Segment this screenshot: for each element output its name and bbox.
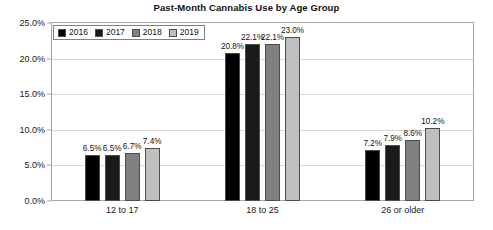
bar[interactable] — [385, 145, 400, 201]
bar[interactable] — [425, 128, 440, 201]
legend-label: 2016 — [69, 28, 88, 37]
bar-group: 7.2%7.9%8.6%10.2% — [365, 23, 440, 201]
bar-value-label: 6.5% — [103, 144, 122, 154]
chart-title: Past-Month Cannabis Use by Age Group — [0, 2, 493, 13]
y-tick-label: 20.0% — [19, 54, 45, 64]
x-tick-label: 12 to 17 — [106, 205, 139, 215]
bar-value-label: 7.2% — [363, 139, 382, 149]
bar-value-label: 10.2% — [421, 117, 444, 127]
bar[interactable] — [105, 155, 120, 201]
bar[interactable] — [265, 44, 280, 201]
y-tick-label: 5.0% — [24, 160, 45, 170]
legend-label: 2019 — [180, 28, 199, 37]
y-tick-label: 0.0% — [24, 196, 45, 206]
bar[interactable] — [125, 153, 140, 201]
x-tick-label: 26 or older — [381, 205, 424, 215]
bar-value-label: 6.7% — [123, 142, 142, 152]
chart-legend: 2016201720182019 — [53, 25, 205, 40]
bar-group: 20.8%22.1%22.1%23.0% — [225, 23, 300, 201]
legend-swatch-icon — [132, 29, 140, 37]
x-tick-label: 18 to 25 — [246, 205, 279, 215]
x-axis: 12 to 1718 to 2526 or older — [52, 203, 473, 223]
y-tick-label: 10.0% — [19, 125, 45, 135]
bar-group: 6.5%6.5%6.7%7.4% — [85, 23, 160, 201]
legend-swatch-icon — [95, 29, 103, 37]
plot-body: 6.5%6.5%6.7%7.4%20.8%22.1%22.1%23.0%7.2%… — [52, 23, 473, 201]
y-tick-label: 15.0% — [19, 89, 45, 99]
bar-value-label: 20.8% — [221, 42, 244, 52]
bar-value-label: 7.9% — [383, 134, 402, 144]
bar[interactable] — [145, 148, 160, 201]
legend-item[interactable]: 2016 — [58, 28, 88, 37]
bar[interactable] — [85, 155, 100, 201]
bar-value-label: 6.5% — [83, 144, 102, 154]
y-axis: 0.0%5.0%10.0%15.0%20.0%25.0% — [0, 22, 51, 202]
legend-swatch-icon — [169, 29, 177, 37]
bar-value-label: 8.6% — [403, 129, 422, 139]
bar-value-label: 23.0% — [281, 26, 304, 36]
legend-item[interactable]: 2018 — [132, 28, 162, 37]
bar[interactable] — [365, 150, 380, 201]
bar[interactable] — [225, 53, 240, 201]
bar[interactable] — [245, 44, 260, 201]
y-tick-label: 25.0% — [19, 18, 45, 28]
legend-item[interactable]: 2017 — [95, 28, 125, 37]
legend-label: 2017 — [106, 28, 125, 37]
cannabis-use-bar-chart: Past-Month Cannabis Use by Age Group 0.0… — [0, 0, 493, 230]
bar-value-label: 7.4% — [143, 137, 162, 147]
bar[interactable] — [405, 140, 420, 201]
bar[interactable] — [285, 37, 300, 201]
legend-item[interactable]: 2019 — [169, 28, 199, 37]
legend-label: 2018 — [143, 28, 162, 37]
legend-swatch-icon — [58, 29, 66, 37]
